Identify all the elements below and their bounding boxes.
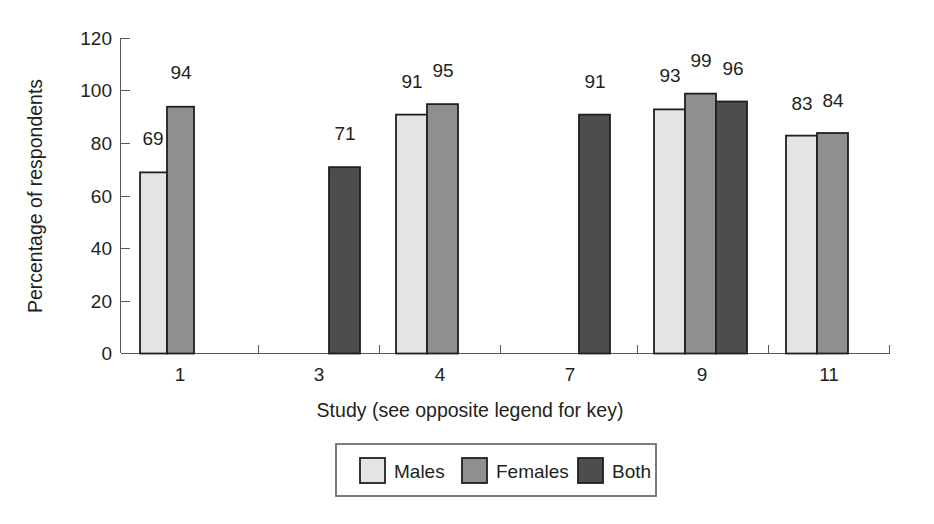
bar-g1-males[interactable] (140, 172, 167, 353)
bar-g4-males[interactable] (396, 115, 427, 354)
y-tick-label: 40 (91, 238, 112, 259)
x-tick-labels: 1 3 4 7 9 11 (175, 364, 839, 385)
value-label-g4-females: 95 (432, 60, 453, 81)
x-tick-label-1: 1 (175, 364, 186, 385)
x-axis-title: Study (see opposite legend for key) (317, 399, 624, 421)
value-label-g3-both: 71 (334, 123, 355, 144)
x-tick-label-7: 7 (565, 364, 576, 385)
bar-g3-both[interactable] (329, 167, 360, 353)
value-label-g4-males: 91 (401, 71, 422, 92)
x-tick-label-11: 11 (819, 364, 839, 385)
bar-g1-females[interactable] (167, 107, 194, 354)
y-tick-labels: 120 100 80 60 40 20 0 (80, 28, 112, 364)
y-tick-marks (121, 39, 131, 354)
x-tick-label-9: 9 (697, 364, 708, 385)
y-tick-label: 120 (80, 28, 112, 49)
x-tick-label-4: 4 (435, 364, 446, 385)
bar-g9-both[interactable] (716, 102, 747, 354)
y-tick-label: 0 (101, 343, 112, 364)
legend-label-males: Males (394, 461, 445, 482)
bars-group (140, 94, 848, 354)
bar-g11-females[interactable] (817, 133, 848, 354)
y-tick-label: 60 (91, 186, 112, 207)
value-label-g9-females: 99 (690, 50, 711, 71)
value-label-g7-both: 91 (584, 71, 605, 92)
bar-g9-females[interactable] (685, 94, 716, 354)
bar-g11-males[interactable] (786, 136, 817, 354)
y-tick-label: 100 (80, 80, 112, 101)
bar-chart: 120 100 80 60 40 20 0 Percentage of resp… (0, 0, 934, 524)
chart-page: 120 100 80 60 40 20 0 Percentage of resp… (0, 0, 934, 524)
bar-g9-males[interactable] (654, 109, 685, 353)
x-tick-label-3: 3 (314, 364, 325, 385)
y-tick-label: 80 (91, 133, 112, 154)
value-label-g1-males: 69 (142, 128, 163, 149)
legend-swatch-females (462, 458, 487, 483)
value-label-g9-males: 93 (659, 65, 680, 86)
legend-label-both: Both (612, 461, 651, 482)
y-axis-title: Percentage of respondents (24, 79, 46, 313)
value-label-g1-females: 94 (170, 62, 192, 83)
legend-swatch-both (578, 458, 603, 483)
legend-swatch-males (360, 458, 385, 483)
value-label-g9-both: 96 (722, 58, 743, 79)
bar-g7-both[interactable] (579, 115, 610, 354)
value-label-g11-males: 83 (791, 93, 812, 114)
legend-label-females: Females (496, 461, 569, 482)
value-label-g11-females: 84 (822, 90, 844, 111)
bar-g4-females[interactable] (427, 104, 458, 353)
y-tick-label: 20 (91, 291, 112, 312)
legend: Males Females Both (336, 444, 656, 496)
